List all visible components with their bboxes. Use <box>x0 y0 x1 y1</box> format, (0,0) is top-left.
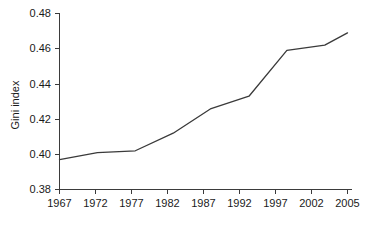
y-tick-label-0.48: 0.48 <box>30 7 51 19</box>
chart-background <box>0 0 372 229</box>
line-chart: 0.48 0.46 0.44 0.42 0.40 0.38 Gini index <box>0 0 372 229</box>
x-tick-label-1972: 1972 <box>83 197 107 209</box>
x-tick-label-1992: 1992 <box>227 197 251 209</box>
y-tick-label-0.44: 0.44 <box>30 78 51 90</box>
x-tick-label-1967: 1967 <box>47 197 71 209</box>
y-tick-label-0.46: 0.46 <box>30 42 51 54</box>
y-axis-title: Gini index <box>9 80 21 129</box>
x-tick-label-1987: 1987 <box>191 197 215 209</box>
chart-figure: 0.48 0.46 0.44 0.42 0.40 0.38 Gini index <box>0 0 372 229</box>
x-tick-label-1977: 1977 <box>119 197 143 209</box>
y-tick-label-0.40: 0.40 <box>30 148 51 160</box>
x-axis-tick-labels: 1967 1972 1977 1982 1987 1992 1997 2002 … <box>47 197 359 209</box>
x-tick-label-2002: 2002 <box>299 197 323 209</box>
y-tick-label-0.42: 0.42 <box>30 113 51 125</box>
x-tick-label-1997: 1997 <box>263 197 287 209</box>
y-tick-label-0.38: 0.38 <box>30 183 51 195</box>
x-tick-label-1982: 1982 <box>155 197 179 209</box>
x-tick-label-2005: 2005 <box>335 197 359 209</box>
